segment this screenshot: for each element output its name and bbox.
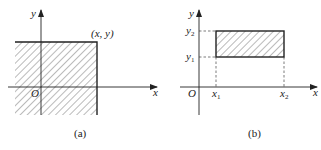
caption-b: (b)	[248, 127, 261, 140]
caption-a: (a)	[74, 127, 87, 140]
panel-b: y x O y2 y1 x1 x2 (b)	[180, 7, 318, 140]
x1-tick-label: x1	[211, 87, 221, 101]
y-axis-label-b: y	[188, 7, 194, 19]
origin-label-b: O	[188, 87, 196, 99]
x2-tick-label: x2	[279, 87, 289, 101]
y1-tick-label: y1	[185, 50, 195, 64]
origin-label-a: O	[31, 87, 39, 99]
point-label-a: (x, y)	[91, 27, 114, 40]
diagram-canvas: y x O (x, y) (a) y x O y2 y1 x1 x2 (b)	[0, 0, 321, 150]
x-axis-label-a: x	[152, 86, 158, 98]
x-axis-label-b: x	[312, 86, 318, 98]
shaded-region-a	[15, 42, 97, 115]
shaded-region-b	[216, 31, 284, 57]
y2-tick-label: y2	[185, 24, 195, 38]
y-axis-label-a: y	[30, 7, 36, 19]
panel-a: y x O (x, y) (a)	[8, 7, 158, 140]
